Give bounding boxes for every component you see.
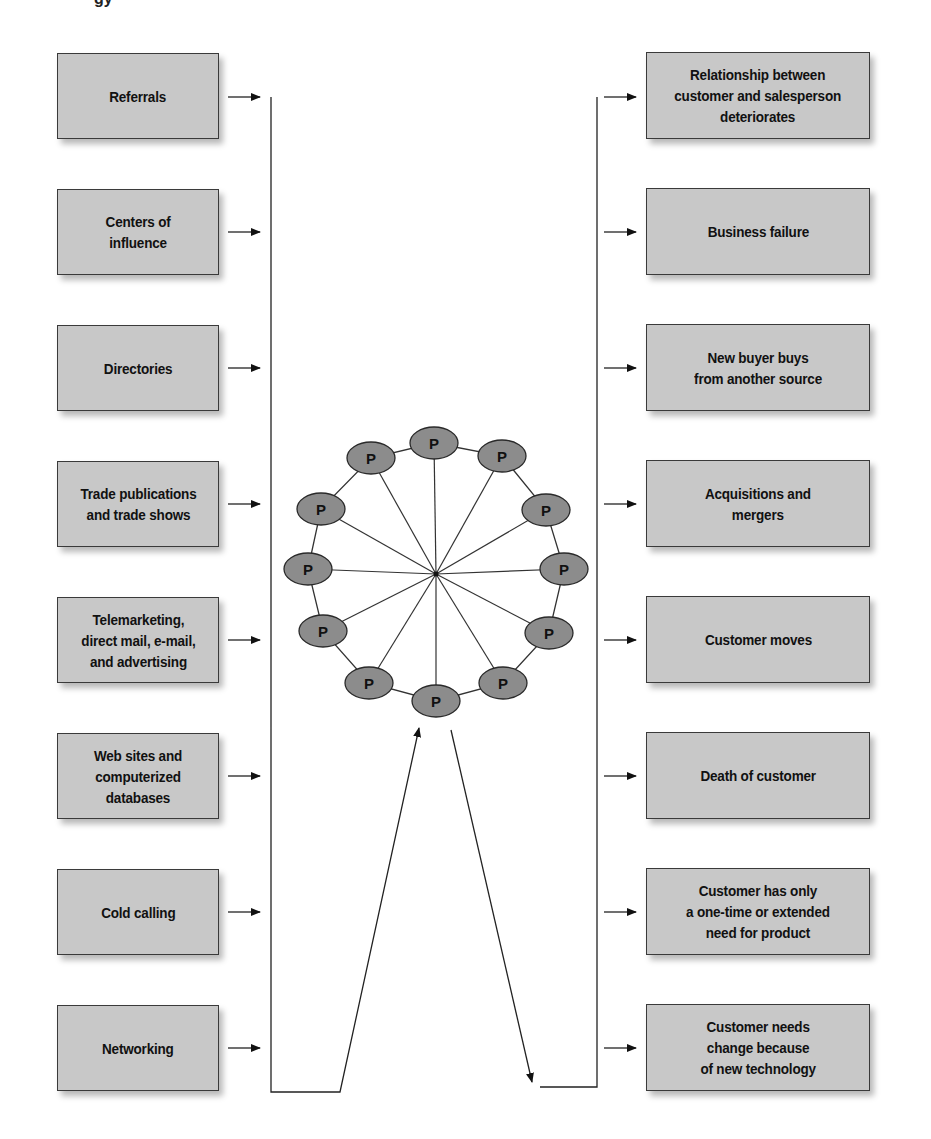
source-label: Directories: [104, 358, 173, 379]
wheel-hub: [434, 572, 439, 577]
loss-box-death-of-customer: Death of customer: [646, 732, 870, 819]
loss-box-new-technology: Customer needs change because of new tec…: [646, 1004, 870, 1091]
loss-box-new-buyer: New buyer buys from another source: [646, 324, 870, 411]
prospect-wheel: P P P P P P P P P P P P: [284, 427, 588, 717]
svg-text:P: P: [497, 448, 507, 465]
loss-arrows: [604, 97, 636, 1048]
source-box-cold-calling: Cold calling: [57, 869, 219, 955]
loss-label: Business failure: [707, 221, 808, 242]
svg-text:P: P: [316, 501, 326, 518]
source-collector-line: [271, 97, 419, 1092]
loss-label: Customer needs change because of new tec…: [700, 1016, 815, 1079]
loss-box-acquisitions: Acquisitions and mergers: [646, 460, 870, 547]
loss-label: Relationship between customer and salesp…: [675, 64, 842, 127]
source-label: Referrals: [110, 86, 167, 107]
source-box-referrals: Referrals: [57, 53, 219, 139]
svg-text:P: P: [366, 450, 376, 467]
source-box-trade-publications: Trade publications and trade shows: [57, 461, 219, 547]
loss-label: Customer moves: [704, 629, 811, 650]
source-arrows: [228, 97, 260, 1048]
source-box-directories: Directories: [57, 325, 219, 411]
svg-text:P: P: [498, 675, 508, 692]
loss-collector-line: [451, 730, 532, 1082]
loss-label: Acquisitions and mergers: [705, 483, 811, 525]
source-box-networking: Networking: [57, 1005, 219, 1091]
source-label: Web sites and computerized databases: [94, 745, 182, 808]
source-label: Trade publications and trade shows: [80, 483, 196, 525]
svg-text:P: P: [559, 561, 569, 578]
source-label: Cold calling: [101, 902, 175, 923]
source-box-web-sites: Web sites and computerized databases: [57, 733, 219, 819]
loss-box-relationship-deteriorates: Relationship between customer and salesp…: [646, 52, 870, 139]
svg-text:P: P: [429, 435, 439, 452]
svg-text:P: P: [318, 623, 328, 640]
loss-label: Death of customer: [700, 765, 815, 786]
source-label: Networking: [102, 1038, 174, 1059]
loss-box-customer-moves: Customer moves: [646, 596, 870, 683]
source-label: Centers of influence: [106, 211, 171, 253]
svg-text:P: P: [541, 502, 551, 519]
svg-text:P: P: [303, 561, 313, 578]
svg-text:P: P: [544, 625, 554, 642]
loss-label: Customer has only a one-time or extended…: [686, 880, 830, 943]
svg-text:P: P: [364, 675, 374, 692]
source-label: Telemarketing, direct mail, e-mail, and …: [81, 609, 195, 672]
loss-label: New buyer buys from another source: [694, 347, 822, 389]
svg-text:P: P: [431, 693, 441, 710]
source-box-centers-of-influence: Centers of influence: [57, 189, 219, 275]
flow-diagram-lines: P P P P P P P P P P P P: [0, 0, 931, 1139]
source-box-telemarketing: Telemarketing, direct mail, e-mail, and …: [57, 597, 219, 683]
loss-box-business-failure: Business failure: [646, 188, 870, 275]
loss-box-one-time-need: Customer has only a one-time or extended…: [646, 868, 870, 955]
